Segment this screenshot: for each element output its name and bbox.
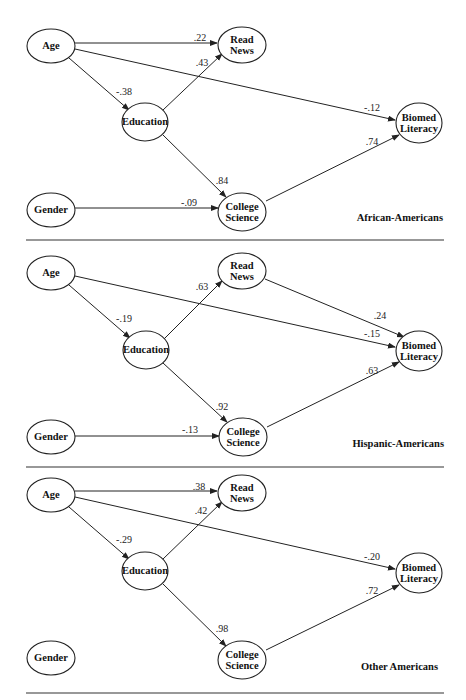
path-coefficient: -.29	[116, 534, 132, 545]
path-coefficient: .24	[374, 310, 387, 321]
path-arrow-age-to-education	[69, 285, 130, 338]
node-label: Read	[230, 482, 253, 493]
path-arrow-college-science-to-biomed-literacy	[266, 135, 399, 201]
node-college-science: CollegeScience	[219, 418, 267, 456]
node-age: Age	[27, 29, 75, 63]
node-label: Gender	[34, 431, 68, 442]
path-coefficient: .63	[366, 365, 379, 376]
node-label: Literacy	[400, 123, 439, 134]
path-coefficient: .42	[195, 505, 208, 516]
node-label: Literacy	[400, 573, 439, 584]
node-label: College	[226, 426, 260, 437]
path-arrow-college-science-to-biomed-literacy	[266, 585, 399, 650]
path-coefficient: -.20	[364, 551, 380, 562]
node-label: Science	[225, 660, 259, 671]
node-age: Age	[27, 478, 75, 512]
path-coefficient: .92	[216, 401, 229, 412]
dividers-layer	[26, 240, 444, 693]
node-label: Biomed	[402, 112, 437, 123]
path-coefficient: -.12	[364, 102, 380, 113]
node-label: Education	[122, 565, 168, 576]
node-age: Age	[27, 256, 75, 290]
path-coefficient: .84	[216, 175, 229, 186]
node-label: Biomed	[402, 562, 437, 573]
path-arrow-age-to-education	[69, 58, 129, 110]
node-gender: Gender	[27, 193, 75, 227]
path-coefficient: .72	[366, 585, 379, 596]
group-label: African-Americans	[357, 212, 443, 223]
panel-hispanic-americans: -.15-.19.63.24.92.63-.13AgeReadNewsEduca…	[27, 253, 444, 456]
path-diagram: .22-.12-.38.43.84.74-.09AgeReadNewsEduca…	[0, 0, 466, 700]
node-gender: Gender	[27, 641, 75, 675]
node-label: Gender	[34, 652, 68, 663]
node-label: Biomed	[402, 340, 437, 351]
path-coefficient: -.13	[182, 424, 198, 435]
node-label: Education	[123, 344, 169, 355]
node-gender: Gender	[27, 420, 75, 454]
path-arrow-education-to-college-science	[163, 363, 227, 422]
node-label: Age	[42, 267, 60, 278]
path-coefficient: -.15	[364, 328, 380, 339]
edges: -.15-.19.63.24.92.63-.13	[69, 276, 404, 436]
path-arrow-education-to-read-news	[164, 281, 222, 339]
path-arrow-education-to-college-science	[163, 584, 226, 646]
node-label: News	[230, 493, 254, 504]
node-label: Read	[230, 260, 253, 271]
node-label: Age	[42, 489, 60, 500]
node-biomed-literacy: BiomedLiteracy	[396, 331, 442, 371]
nodes: AgeReadNewsEducationBiomedLiteracyGender…	[27, 27, 442, 231]
node-label: Education	[122, 116, 168, 127]
node-college-science: CollegeScience	[218, 641, 266, 679]
node-read-news: ReadNews	[218, 475, 266, 511]
node-read-news: ReadNews	[218, 27, 266, 63]
node-biomed-literacy: BiomedLiteracy	[396, 103, 442, 143]
path-coefficient: .38	[193, 481, 206, 492]
node-label: News	[230, 271, 254, 282]
path-coefficient: .43	[196, 57, 209, 68]
node-label: Science	[226, 437, 260, 448]
path-coefficient: .63	[196, 281, 209, 292]
path-coefficient: -.38	[116, 86, 132, 97]
node-label: Science	[225, 212, 259, 223]
nodes: AgeReadNewsEducationBiomedLiteracyGender…	[27, 253, 442, 456]
panel-african-americans: .22-.12-.38.43.84.74-.09AgeReadNewsEduca…	[27, 27, 443, 231]
node-label: Literacy	[400, 351, 439, 362]
group-label: Other Americans	[361, 661, 438, 672]
path-arrow-read-news-to-biomed-literacy	[265, 279, 404, 337]
path-arrow-education-to-read-news	[163, 54, 222, 110]
node-label: News	[230, 45, 254, 56]
group-label: Hispanic-Americans	[352, 438, 444, 449]
path-arrow-education-to-read-news	[163, 502, 222, 559]
node-college-science: CollegeScience	[218, 193, 266, 231]
node-education: Education	[122, 552, 168, 590]
path-coefficient: -.19	[116, 313, 132, 324]
path-arrow-college-science-to-biomed-literacy	[267, 362, 399, 427]
node-education: Education	[123, 331, 169, 369]
node-label: Gender	[34, 204, 68, 215]
panel-other-americans: .38-.20-.29.42.98.72AgeReadNewsEducation…	[27, 475, 442, 679]
node-label: College	[225, 649, 259, 660]
path-arrow-education-to-college-science	[163, 135, 226, 197]
path-coefficient: .22	[194, 32, 207, 43]
nodes: AgeReadNewsEducationBiomedLiteracyGender…	[27, 475, 442, 679]
panels-layer: .22-.12-.38.43.84.74-.09AgeReadNewsEduca…	[27, 27, 444, 679]
node-biomed-literacy: BiomedLiteracy	[396, 553, 442, 593]
node-education: Education	[122, 103, 168, 141]
node-label: Read	[230, 34, 253, 45]
node-read-news: ReadNews	[218, 253, 266, 289]
path-coefficient: -.09	[181, 197, 197, 208]
node-label: College	[225, 201, 259, 212]
path-coefficient: .74	[366, 136, 379, 147]
path-coefficient: .98	[216, 623, 229, 634]
path-arrow-age-to-education	[69, 507, 129, 559]
node-label: Age	[42, 40, 60, 51]
